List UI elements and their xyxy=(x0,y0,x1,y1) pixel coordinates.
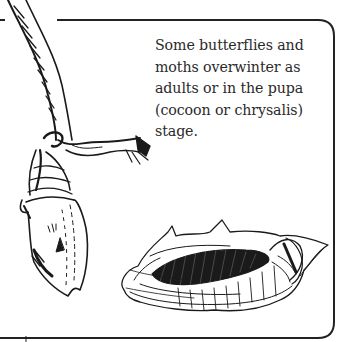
caption-line: (cocoon or chrysalis) xyxy=(155,100,330,122)
caption-line: moths overwinter as xyxy=(155,57,330,79)
caption-line: adults or in the pupa xyxy=(155,78,330,100)
caption-line: stage. xyxy=(155,121,330,143)
caption-line: Some butterflies and xyxy=(155,35,330,57)
caption-text: Some butterflies and moths overwinter as… xyxy=(155,35,330,143)
